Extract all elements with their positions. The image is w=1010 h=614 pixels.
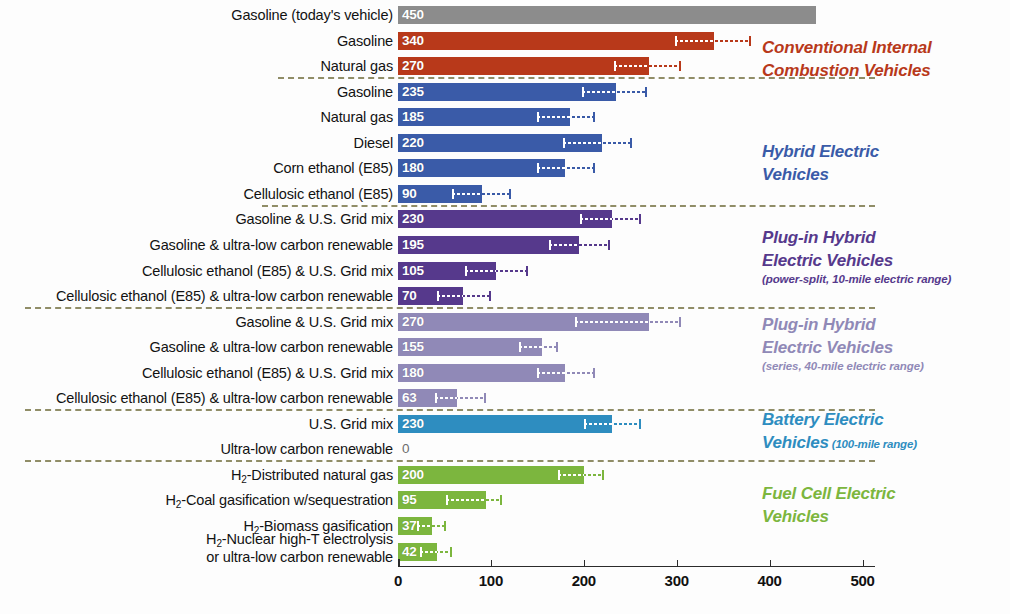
error-bar-cap-high	[602, 470, 604, 480]
error-bar-inner-line	[446, 499, 486, 501]
bar-value-label: 0	[402, 440, 409, 458]
error-bar-inner	[420, 551, 437, 553]
bar-row-label: Gasoline	[337, 30, 393, 52]
group-caption-title: Conventional Internal Combustion Vehicle…	[762, 38, 932, 80]
bar-value-label: 230	[402, 210, 424, 228]
error-bar-inner-cap	[437, 291, 439, 301]
error-bar-inner	[437, 295, 463, 297]
error-bar-inner	[519, 346, 542, 348]
bar-row: Natural gas185	[0, 106, 1010, 128]
bar-container: 63	[398, 389, 863, 407]
error-bar-inner-cap	[537, 112, 539, 122]
error-bar-inner-cap	[675, 36, 677, 46]
x-axis	[398, 566, 875, 567]
x-axis-tick	[398, 559, 400, 567]
group-caption-title: Plug-in Hybrid Electric Vehicles	[762, 315, 893, 357]
error-bar-inner	[582, 91, 616, 93]
chart-canvas: Gasoline (today's vehicle)450Gasoline340…	[0, 0, 1010, 614]
error-bar-inner-line	[614, 65, 649, 67]
group-caption-fuel-cell-electric-vehicles: Fuel Cell Electric Vehicles	[762, 482, 1010, 528]
error-bar-inner-line	[537, 167, 565, 169]
bar-value-label: 90	[402, 185, 417, 203]
group-separator	[25, 409, 875, 411]
error-bar-inner-cap	[519, 342, 521, 352]
error-bar-cap-high	[489, 291, 491, 301]
error-bar-inner	[580, 218, 612, 220]
error-bar-inner-cap	[575, 317, 577, 327]
group-separator	[25, 307, 875, 309]
error-bar-inner-line	[584, 423, 612, 425]
bar-value-label: 105	[402, 262, 424, 280]
bar	[398, 466, 584, 484]
error-bar-cap-high	[593, 112, 595, 122]
error-bar-cap-high	[639, 419, 641, 429]
error-bar-inner-cap	[580, 214, 582, 224]
group-caption-battery-electric-vehicles: Battery Electric Vehicles (100-mile rang…	[762, 408, 1010, 456]
bar-container: 450	[398, 6, 863, 24]
error-bar-inner-line	[420, 551, 437, 553]
bar-row-label: Gasoline (today's vehicle)	[231, 4, 393, 26]
error-bar-inner-line	[452, 193, 482, 195]
error-bar-cap-high	[556, 342, 558, 352]
x-axis-tick-label: 200	[572, 572, 596, 589]
error-bar-cap-high	[679, 317, 681, 327]
bar-row-label: Natural gas	[321, 106, 394, 128]
error-bar-inner	[614, 65, 649, 67]
error-bar-inner-cap	[582, 87, 584, 97]
error-bar-inner-cap	[537, 368, 539, 378]
error-bar-inner-line	[435, 397, 456, 399]
x-axis-tick-label: 0	[394, 572, 402, 589]
bar-value-label: 42	[402, 543, 417, 561]
error-bar-inner-line	[417, 525, 433, 527]
error-bar-cap-high	[639, 214, 641, 224]
x-axis-tick	[677, 560, 679, 567]
bar-value-label: 200	[402, 466, 424, 484]
error-bar-inner	[584, 423, 612, 425]
bar-row-label: Cellulosic ethanol (E85)	[243, 183, 393, 205]
bar-container: 42	[398, 543, 863, 561]
group-caption-conventional-internal-combustion-vehicles: Conventional Internal Combustion Vehicle…	[762, 36, 1010, 82]
bar-row: Gasoline235	[0, 81, 1010, 103]
bar-value-label: 180	[402, 364, 424, 382]
bar-row-label: Natural gas	[321, 55, 394, 77]
x-axis-tick-label: 500	[850, 572, 874, 589]
x-axis-tick-label: 300	[665, 572, 689, 589]
error-bar-inner-line	[549, 244, 579, 246]
error-bar-cap-high	[645, 87, 647, 97]
error-bar-inner	[465, 270, 496, 272]
group-caption-subtitle-inline: (100-mile range)	[829, 438, 917, 450]
bar-container: 235	[398, 83, 863, 101]
bar-row-label: Cellulosic ethanol (E85) & U.S. Grid mix	[142, 260, 393, 282]
error-bar-inner-line	[575, 321, 649, 323]
error-bar-inner-line	[582, 91, 616, 93]
bar-row-label: Gasoline & ultra-low carbon renewable	[150, 234, 394, 256]
bar-value-label: 37	[402, 517, 417, 535]
bar-value-label: 155	[402, 338, 424, 356]
bar-row-label: Cellulosic ethanol (E85) & ultra-low car…	[56, 387, 393, 409]
group-caption-title: Fuel Cell Electric Vehicles	[762, 484, 895, 526]
error-bar-inner-cap	[537, 163, 539, 173]
error-bar-cap-high	[749, 36, 751, 46]
error-bar-inner-cap	[614, 61, 616, 71]
bar	[398, 6, 816, 24]
bar-row-label: H2-Coal gasification w/sequestration	[166, 489, 393, 511]
error-bar-cap-high	[526, 266, 528, 276]
group-caption-title: Hybrid Electric Vehicles	[762, 142, 879, 184]
group-separator	[262, 205, 875, 207]
error-bar-inner	[537, 167, 565, 169]
bar	[398, 57, 649, 75]
error-bar-inner-cap	[417, 521, 419, 531]
group-caption-hybrid-electric-vehicles: Hybrid Electric Vehicles	[762, 140, 1010, 186]
error-bar-inner	[675, 40, 714, 42]
bar-row-label: H2-Distributed natural gas	[231, 464, 393, 486]
bar-row-label: Gasoline	[337, 81, 393, 103]
error-bar-inner-line	[437, 295, 463, 297]
bar-row-label: Gasoline & U.S. Grid mix	[235, 311, 393, 333]
error-bar-inner-line	[537, 372, 565, 374]
x-axis-tick-label: 100	[479, 572, 503, 589]
error-bar-inner-cap	[465, 266, 467, 276]
bar-container: 185	[398, 108, 863, 126]
bar-row-label: Gasoline & ultra-low carbon renewable	[150, 336, 394, 358]
group-caption-title: Plug-in Hybrid Electric Vehicles	[762, 228, 893, 270]
bar-value-label: 63	[402, 389, 417, 407]
